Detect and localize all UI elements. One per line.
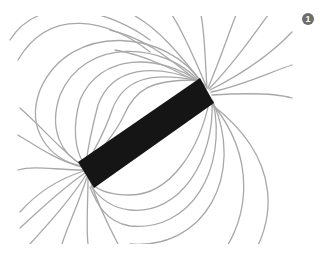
- field-line: [18, 168, 84, 170]
- field-line: [209, 15, 268, 89]
- field-line: [87, 178, 88, 244]
- field-line: [30, 175, 86, 244]
- field-line: [20, 108, 83, 166]
- field-line: [211, 65, 292, 92]
- bar-magnet-field-diagram: [0, 0, 333, 263]
- field-line: [18, 135, 82, 167]
- field-line: [212, 94, 292, 98]
- figure-number-badge: 1: [302, 13, 314, 25]
- field-line: [208, 15, 236, 88]
- field-line: [210, 32, 292, 90]
- bar-magnet: [78, 78, 214, 188]
